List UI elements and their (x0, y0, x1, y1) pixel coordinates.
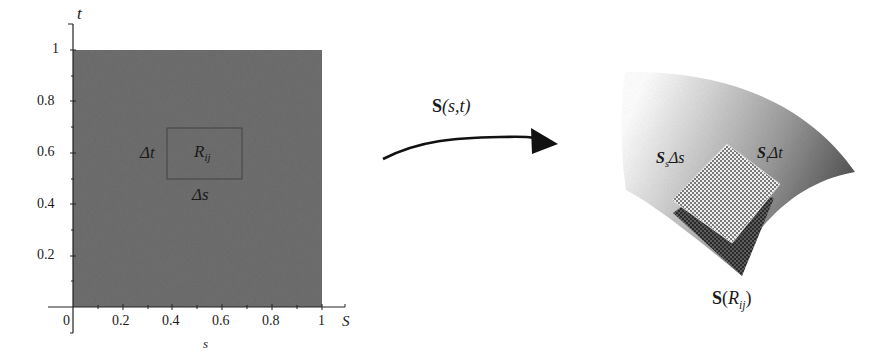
y-tick-0-6: 0.6 (37, 144, 55, 160)
diagram-graphics (0, 0, 892, 363)
x-axis-label: s (203, 336, 208, 352)
s-rij-label: S(Rij) (712, 288, 752, 312)
y-tick-0-8: 0.8 (37, 93, 55, 109)
y-tick-0-4: 0.4 (37, 196, 55, 212)
x-tick-0-6: 0.6 (212, 313, 230, 329)
surface-image (621, 72, 855, 276)
ss-delta-s-label: SsΔs (656, 149, 685, 169)
x-tick-0: 0 (63, 313, 70, 329)
x-tick-0-8: 0.8 (262, 313, 280, 329)
x-tick-0-2: 0.2 (112, 313, 130, 329)
diagram-stage: t 1 0.8 0.6 0.4 0.2 0 0.2 0.4 0.6 0.8 1 … (0, 0, 892, 363)
st-delta-t-label: StΔt (757, 144, 783, 164)
parameter-domain-plot (48, 24, 345, 333)
y-tick-1: 1 (52, 41, 59, 57)
x-tick-0-4: 0.4 (162, 313, 180, 329)
y-tick-0-2: 0.2 (37, 247, 55, 263)
delta-s-label: Δs (192, 185, 209, 205)
mapping-label: S(s,t) (432, 96, 471, 117)
rij-label: Rij (194, 142, 211, 163)
x-tick-1: 1 (318, 313, 325, 329)
delta-t-label: Δt (140, 143, 155, 163)
unit-square-region (73, 50, 322, 307)
y-axis-label: t (77, 4, 82, 24)
mapping-arrow (383, 128, 558, 159)
arrow-curve (383, 137, 538, 159)
x-axis-end-label: S (342, 313, 350, 330)
arrow-head-icon (531, 128, 558, 154)
